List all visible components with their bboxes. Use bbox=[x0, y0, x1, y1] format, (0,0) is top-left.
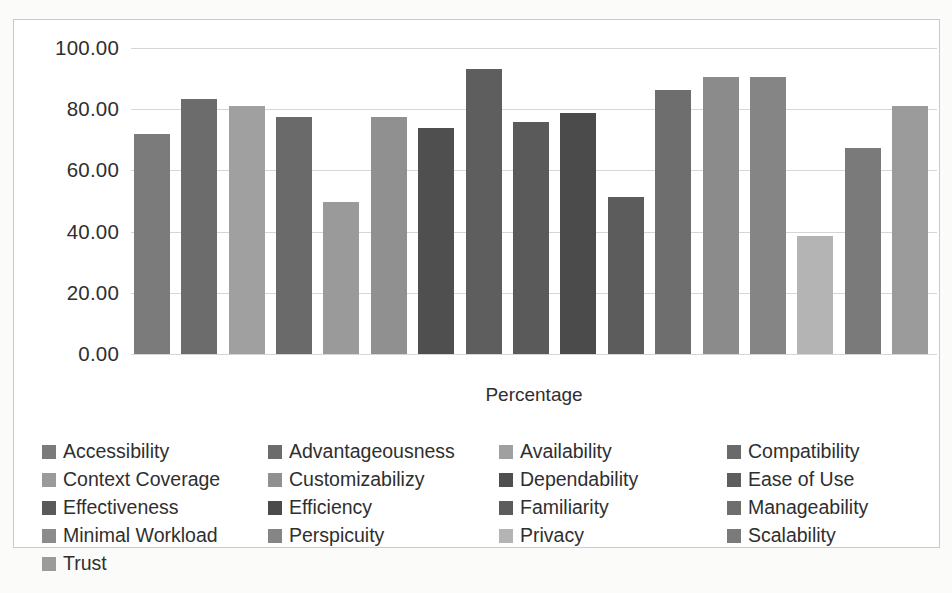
bar bbox=[418, 128, 454, 354]
legend-item-label: Perspicuity bbox=[289, 526, 384, 546]
legend-swatch-icon bbox=[268, 473, 282, 487]
legend-swatch-icon bbox=[499, 445, 513, 459]
legend-item-label: Privacy bbox=[520, 526, 584, 546]
bar bbox=[371, 117, 407, 354]
legend-item-label: Dependability bbox=[520, 470, 638, 490]
bar bbox=[323, 202, 359, 354]
legend-item[interactable]: Efficiency bbox=[268, 494, 499, 521]
legend-item[interactable]: Advantageousness bbox=[268, 438, 499, 465]
bar bbox=[560, 113, 596, 354]
page-background: 100.0080.0060.0040.0020.000.00 Percentag… bbox=[0, 0, 952, 593]
legend-item-label: Customizabilizy bbox=[289, 470, 424, 490]
legend-swatch-icon bbox=[268, 501, 282, 515]
bar bbox=[797, 236, 833, 354]
bar bbox=[845, 148, 881, 354]
legend-item-label: Trust bbox=[63, 554, 107, 574]
legend-item-label: Compatibility bbox=[748, 442, 860, 462]
legend-swatch-icon bbox=[499, 473, 513, 487]
bar bbox=[655, 90, 691, 354]
x-axis-title: Percentage bbox=[131, 384, 937, 406]
legend-swatch-icon bbox=[42, 529, 56, 543]
legend-item[interactable]: Familiarity bbox=[499, 494, 727, 521]
bar bbox=[703, 77, 739, 354]
legend-item[interactable]: Context Coverage bbox=[42, 466, 268, 493]
legend-item[interactable]: Availability bbox=[499, 438, 727, 465]
legend-swatch-icon bbox=[727, 445, 741, 459]
legend-swatch-icon bbox=[727, 501, 741, 515]
legend-swatch-icon bbox=[727, 473, 741, 487]
legend-swatch-icon bbox=[727, 529, 741, 543]
legend-swatch-icon bbox=[268, 445, 282, 459]
legend-swatch-icon bbox=[268, 529, 282, 543]
bar bbox=[181, 99, 217, 355]
legend-item[interactable]: Effectiveness bbox=[42, 494, 268, 521]
legend-item-label: Efficiency bbox=[289, 498, 372, 518]
y-axis-tick-label: 0.00 bbox=[78, 342, 119, 366]
legend-item-label: Advantageousness bbox=[289, 442, 455, 462]
legend-item-label: Effectiveness bbox=[63, 498, 179, 518]
y-axis-tick-label: 100.00 bbox=[55, 36, 119, 60]
legend-item-label: Familiarity bbox=[520, 498, 609, 518]
bar bbox=[466, 69, 502, 354]
legend-item[interactable]: Manageability bbox=[727, 494, 922, 521]
y-axis-tick-label: 80.00 bbox=[67, 97, 119, 121]
legend-swatch-icon bbox=[499, 529, 513, 543]
legend-item[interactable]: Accessibility bbox=[42, 438, 268, 465]
chart-frame: 100.0080.0060.0040.0020.000.00 Percentag… bbox=[13, 19, 940, 548]
legend-item[interactable]: Privacy bbox=[499, 522, 727, 549]
legend-item-label: Availability bbox=[520, 442, 612, 462]
bar bbox=[229, 106, 265, 354]
legend-swatch-icon bbox=[42, 557, 56, 571]
legend-item[interactable]: Perspicuity bbox=[268, 522, 499, 549]
legend-item[interactable]: Ease of Use bbox=[727, 466, 922, 493]
gridline bbox=[131, 354, 937, 355]
legend-item-label: Ease of Use bbox=[748, 470, 854, 490]
legend-item[interactable]: Minimal Workload bbox=[42, 522, 268, 549]
legend-swatch-icon bbox=[42, 501, 56, 515]
plot-area: 100.0080.0060.0040.0020.000.00 bbox=[131, 48, 937, 354]
legend-swatch-icon bbox=[499, 501, 513, 515]
bar bbox=[892, 106, 928, 354]
legend-item[interactable]: Scalability bbox=[727, 522, 922, 549]
bar bbox=[608, 197, 644, 354]
legend-item-label: Minimal Workload bbox=[63, 526, 218, 546]
legend-swatch-icon bbox=[42, 473, 56, 487]
y-axis-tick-label: 20.00 bbox=[67, 281, 119, 305]
bar bbox=[513, 122, 549, 354]
y-axis-tick-label: 60.00 bbox=[67, 158, 119, 182]
legend-item-label: Scalability bbox=[748, 526, 836, 546]
legend-swatch-icon bbox=[42, 445, 56, 459]
bar bbox=[750, 77, 786, 354]
y-axis-tick-label: 40.00 bbox=[67, 220, 119, 244]
legend-item[interactable]: Trust bbox=[42, 550, 268, 577]
legend-item[interactable]: Dependability bbox=[499, 466, 727, 493]
bar-series bbox=[131, 48, 937, 354]
legend-item-label: Context Coverage bbox=[63, 470, 220, 490]
legend-item[interactable]: Customizabilizy bbox=[268, 466, 499, 493]
legend-item-label: Manageability bbox=[748, 498, 868, 518]
chart-legend: AccessibilityAdvantageousnessAvailabilit… bbox=[42, 438, 922, 577]
bar bbox=[276, 117, 312, 354]
legend-item-label: Accessibility bbox=[63, 442, 169, 462]
bar bbox=[134, 134, 170, 354]
legend-item[interactable]: Compatibility bbox=[727, 438, 922, 465]
